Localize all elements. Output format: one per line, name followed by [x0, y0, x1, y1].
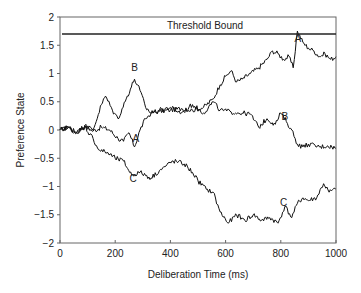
y-tick-label: −0.5	[34, 153, 54, 164]
y-axis: −2−1.5−1−0.500.511.52	[34, 12, 60, 249]
y-tick-label: −1.5	[34, 209, 54, 220]
x-tick-label: 1000	[325, 248, 348, 259]
series-line-c	[60, 126, 336, 224]
series-label-b: B	[282, 111, 289, 122]
x-tick-label: 400	[162, 248, 179, 259]
x-tick-label: 600	[217, 248, 234, 259]
series-label-a: A	[133, 133, 140, 144]
series-label-a: A	[295, 33, 302, 44]
plot-lines: AABBCC	[60, 31, 336, 223]
chart: −2−1.5−1−0.500.511.52 02004006008001000 …	[0, 0, 361, 293]
y-tick-label: 1	[48, 68, 54, 79]
x-axis-label: Deliberation Time (ms)	[148, 269, 249, 280]
y-tick-label: −2	[43, 238, 55, 249]
series-label-c: C	[280, 197, 287, 208]
series-line-a	[60, 31, 336, 147]
y-tick-label: 1.5	[40, 40, 54, 51]
y-tick-label: 0.5	[40, 96, 54, 107]
series-label-c: C	[130, 173, 137, 184]
y-tick-label: 2	[48, 12, 54, 23]
y-tick-label: 0	[48, 125, 54, 136]
y-tick-label: −1	[43, 181, 55, 192]
y-axis-label: Preference State	[15, 92, 26, 167]
x-tick-label: 200	[107, 248, 124, 259]
x-tick-label: 0	[57, 248, 63, 259]
series-label-b: B	[131, 62, 138, 73]
threshold-label: Threshold Bound	[167, 20, 243, 31]
x-tick-label: 800	[272, 248, 289, 259]
series-line-b	[60, 79, 336, 149]
